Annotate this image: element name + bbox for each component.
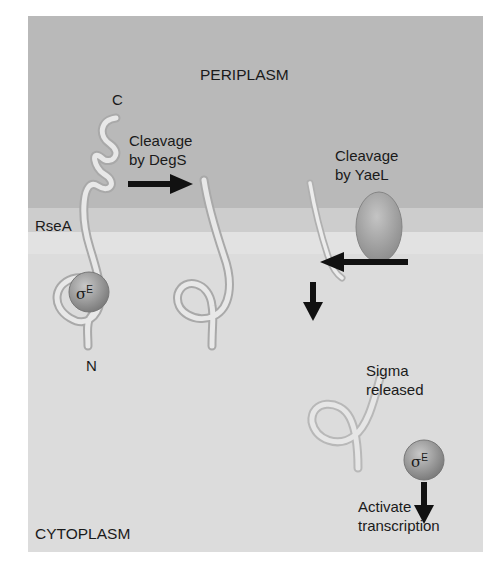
degs-step-line2: by DegS [129,151,187,169]
activate-transcription-line1: Activate [358,498,411,516]
arrow-down-release [303,282,323,321]
sigma-glyph: σ [76,285,86,303]
diagram-artwork [28,16,483,552]
diagram-panel: PERIPLASM CYTOPLASM C N RseA Cleavage by… [28,16,483,552]
c-terminus-label: C [112,91,123,109]
periplasm-label: PERIPLASM [200,66,289,84]
sigma-e-bound-label: σE [76,284,93,303]
yael-step-line1: Cleavage [335,147,398,165]
degs-step-line1: Cleavage [129,132,192,150]
activate-transcription-line2: transcription [358,517,440,535]
yael-protease-icon [356,192,402,262]
sigma-superscript: E [421,452,428,463]
sigma-glyph: σ [411,453,421,471]
n-terminus-label: N [86,357,97,375]
cytoplasm-label: CYTOPLASM [35,525,130,543]
sigma-superscript: E [86,284,93,295]
arrow-right-degs [128,174,193,194]
sigma-released-line2: released [366,381,424,399]
sigma-released-line1: Sigma [366,362,409,380]
sigma-e-released-label: σE [411,452,428,471]
rsea-label: RseA [35,217,72,235]
rsea-degs-cleaved-strand [178,180,230,346]
yael-step-line2: by YaeL [335,166,389,184]
